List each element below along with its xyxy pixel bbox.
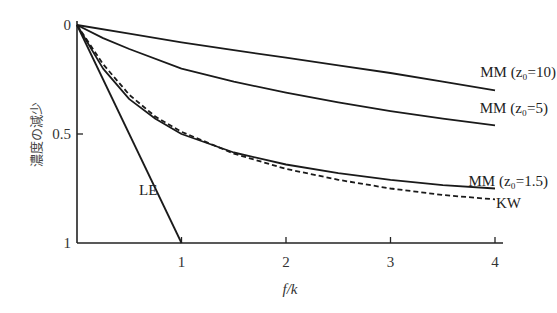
- series-label-mm-z0-1-5: MM (z₀=1.5): [468, 173, 548, 190]
- series-label-kw: KW: [496, 195, 522, 211]
- y-tick-label: 1: [64, 235, 72, 251]
- series-label-le: LE: [139, 182, 157, 198]
- series-label-mm-z0-5: MM (z₀=5): [480, 100, 548, 117]
- axes: 123400.51: [52, 17, 503, 270]
- series-line-mm-z0-5: [77, 25, 495, 125]
- x-axis-title: f/k: [283, 281, 298, 297]
- series-line-le: [77, 25, 182, 243]
- chart: 123400.51 濃度の減少 f/k MM (z₀=10)MM (z₀=5)M…: [0, 0, 557, 313]
- series-line-kw: [77, 25, 495, 199]
- x-tick-label: 3: [387, 254, 395, 270]
- x-tick-label: 2: [282, 254, 290, 270]
- x-tick-label: 4: [491, 254, 499, 270]
- y-tick-label: 0: [64, 17, 72, 33]
- x-tick-label: 1: [178, 254, 186, 270]
- series-labels: MM (z₀=10)MM (z₀=5)MM (z₀=1.5)KWLE: [139, 64, 556, 211]
- series-line-mm-z0-1-5: [77, 25, 495, 189]
- series-group: [77, 25, 495, 243]
- y-axis-title: 濃度の減少: [29, 102, 44, 167]
- series-line-mm-z0-10: [77, 25, 495, 90]
- series-label-mm-z0-10: MM (z₀=10): [480, 64, 556, 81]
- y-tick-label: 0.5: [52, 126, 71, 142]
